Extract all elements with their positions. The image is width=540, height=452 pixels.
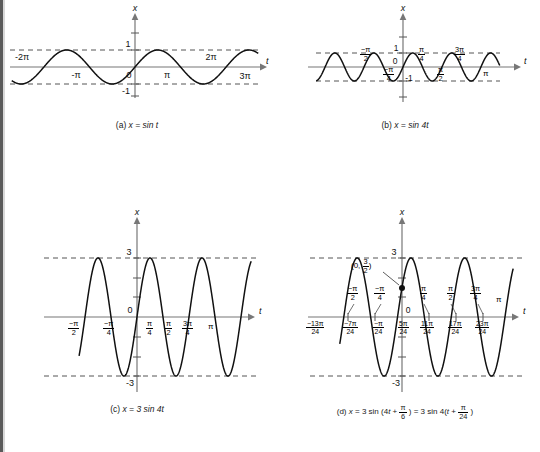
x-zero-d-5pi24: 5π24 <box>398 320 409 335</box>
x-tick-d-three-quarter-pi: 3π4 <box>470 285 481 301</box>
x-tick-d-pi: π <box>496 295 502 304</box>
graph-c: x t 0 3 -3 <box>4 196 270 402</box>
y-axis-arrow-b <box>400 13 407 20</box>
x-label-neg2pi-a: -2π <box>15 52 29 62</box>
x-tick-c-pi: π <box>208 322 214 331</box>
x-tick-b-half-pi: π2 <box>437 66 444 82</box>
caption-b-prefix: (b) <box>381 120 391 130</box>
axis-label-x-a: x <box>132 3 138 13</box>
x-zero-d-neg13pi24: −13π24 <box>306 320 324 335</box>
x-tick-d-neg-quarter-pi: −π4 <box>374 285 385 301</box>
x-tick-b-three-quarter-pi: 3π4 <box>454 46 465 62</box>
graph-a: x t 0 1 -1 -2π -π π 2π 3π <box>4 2 270 120</box>
panel-b: x t 0 1 -1 −π2 −π4 π4 π2 3π4 π (b) x = s… <box>272 2 538 120</box>
caption-c-expr: x = 3 sin 4t <box>122 404 163 414</box>
x-axis-arrow-d <box>512 314 519 321</box>
caption-b-expr: x = sin 4t <box>394 120 428 130</box>
x-tick-d-neg-half-pi: −π2 <box>347 285 358 301</box>
x-zero-d-neg7pi24: −7π24 <box>343 320 358 335</box>
x-axis-arrow-b <box>514 64 521 71</box>
x-label-3pi-a: 3π <box>239 71 250 81</box>
x-tick-b-neg-quarter-pi: −π4 <box>383 66 394 82</box>
caption-d: (d) x = 3 sin (4t + π6 ) = 3 sin 4(t + π… <box>272 404 538 420</box>
x-tick-c-half-pi: π2 <box>165 320 172 336</box>
y-label-neg1-a: -1 <box>122 86 130 96</box>
x-tick-c-three-quarter-pi: 3π4 <box>182 320 193 336</box>
axis-label-t-d: t <box>523 306 526 316</box>
x-zero-d-17pi24: 17π24 <box>448 320 462 335</box>
y-label-pos3-d: 3 <box>391 247 396 257</box>
caption-c: (c) x = 3 sin 4t <box>4 404 270 414</box>
x-tick-c-quarter-pi: π4 <box>146 320 153 336</box>
panel-d: x t 0 3 -3 (0, 32) −π2 −π4 π4 π2 3π4 π −… <box>272 196 538 402</box>
y-label-neg3-d: -3 <box>392 378 400 388</box>
marked-point-d <box>399 285 405 291</box>
x-tick-b-quarter-pi: π4 <box>418 46 425 62</box>
x-zero-d-negpi24: −π24 <box>373 320 384 335</box>
y-label-neg3-c: -3 <box>126 378 134 388</box>
x-label-pi-a: π <box>164 70 170 80</box>
x-axis-arrow-c <box>248 314 255 321</box>
axis-label-t-c: t <box>259 306 262 316</box>
graph-b: x t 0 1 -1 <box>272 2 538 120</box>
origin-label-d: 0 <box>406 305 411 315</box>
axis-label-t-b: t <box>524 56 527 66</box>
pointer-line-d <box>383 272 399 285</box>
x-tick-d-quarter-pi: π4 <box>420 285 427 301</box>
y-label-neg1-b: -1 <box>405 73 413 83</box>
annotation-point-d: (0, 32) <box>351 258 371 274</box>
x-tick-b-neg-half-pi: −π2 <box>360 46 371 62</box>
origin-label-c: 0 <box>127 305 132 315</box>
x-tick-c-neg-half-pi: −π2 <box>68 320 79 336</box>
axis-label-x-c: x <box>134 207 140 217</box>
caption-a: (a) x = sin t <box>4 120 270 130</box>
y-axis-arrow-c <box>134 217 141 224</box>
y-label-pos1-b: 1 <box>394 43 399 53</box>
x-label-2pi-a: 2π <box>205 52 216 62</box>
origin-label-b: 0 <box>393 56 398 66</box>
x-tick-c-neg-quarter-pi: −π4 <box>103 320 114 336</box>
x-tick-d-half-pi: π2 <box>447 285 454 301</box>
caption-a-prefix: (a) <box>116 120 126 130</box>
y-label-pos1-a: 1 <box>125 39 130 49</box>
y-axis-arrow-d <box>399 217 406 224</box>
origin-label-a: 0 <box>126 70 131 80</box>
caption-a-expr: x = sin t <box>129 120 159 130</box>
x-zero-d-11pi24: 11π24 <box>420 320 434 335</box>
figure-page: x t 0 1 -1 -2π -π π 2π 3π (a) x = sin t <box>0 0 540 452</box>
panel-c: x t 0 3 -3 −π2 −π4 π4 π2 3π4 π (c) x = 3… <box>4 196 270 402</box>
axis-label-x-d: x <box>399 207 405 217</box>
caption-b: (b) x = sin 4t <box>272 120 538 130</box>
panel-a: x t 0 1 -1 -2π -π π 2π 3π (a) x = sin t <box>4 2 270 120</box>
caption-d-prefix: (d) <box>337 407 347 416</box>
x-zero-d-23pi24: 23π24 <box>475 320 489 335</box>
axis-label-t-a: t <box>266 56 269 66</box>
y-label-pos3-c: 3 <box>126 247 131 257</box>
y-axis-arrow-a <box>132 13 139 20</box>
x-label-negpi-a: -π <box>71 70 80 80</box>
axis-label-x-b: x <box>400 3 406 13</box>
x-tick-b-pi: π <box>483 69 489 78</box>
caption-c-prefix: (c) <box>110 404 120 414</box>
